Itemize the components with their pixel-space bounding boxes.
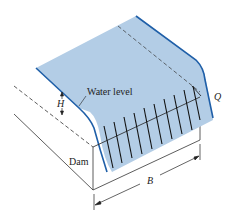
dam-label: Dam [69,157,88,167]
water-level-label: Water level [87,87,133,97]
weir-diagram [0,0,232,219]
width-label: B [147,176,153,186]
head-label: H [57,99,64,109]
flow-rate-label: Q [214,92,221,102]
dam-bottom-left-edge [14,114,93,190]
